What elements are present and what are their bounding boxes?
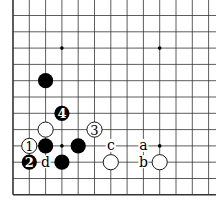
go-board: cadb 4312 xyxy=(0,0,221,210)
star-point xyxy=(60,144,64,148)
black-stone xyxy=(71,138,86,153)
point-marker-d: d xyxy=(41,154,50,170)
star-point xyxy=(158,46,162,50)
point-marker-b: b xyxy=(139,154,148,170)
white-stone xyxy=(152,155,167,170)
black-stone xyxy=(54,155,69,170)
white-stone xyxy=(38,122,53,137)
move-number: 2 xyxy=(25,155,34,170)
point-marker-c: c xyxy=(107,137,115,153)
white-stone xyxy=(103,155,118,170)
point-marker-a: a xyxy=(139,137,147,153)
move-number: 4 xyxy=(57,106,66,121)
black-stone xyxy=(38,73,53,88)
black-stone xyxy=(38,138,53,153)
move-number: 1 xyxy=(25,139,33,154)
star-point xyxy=(158,144,162,148)
move-number: 3 xyxy=(90,123,98,138)
star-point xyxy=(60,46,64,50)
